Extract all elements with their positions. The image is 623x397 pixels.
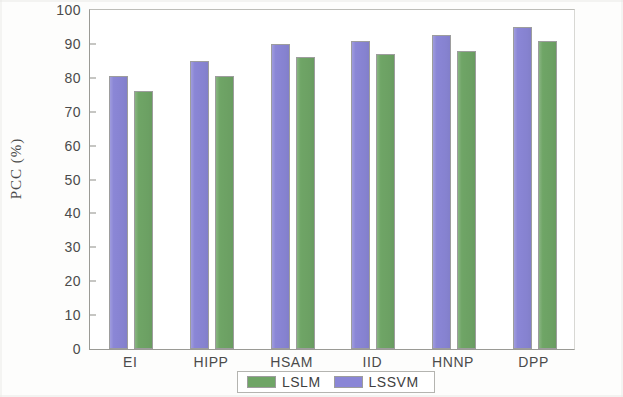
bar-lssvm-hnnp (432, 35, 451, 349)
green-swatch-icon (247, 376, 276, 388)
legend-entry-lssvm: LSSVM (334, 374, 425, 390)
bar-lssvm-hsam (271, 44, 290, 349)
y-tick-label-90: 90 (64, 36, 90, 52)
plot-area: 1009080706050403020100 (89, 9, 575, 350)
bar-lslm-hipp (215, 76, 234, 349)
bar-chart-figure: PCC (%) 1009080706050403020100 EIHIPPHSA… (0, 0, 623, 397)
purple-swatch-icon (334, 376, 363, 388)
y-tick-label-20: 20 (64, 273, 90, 289)
y-tick-label-60: 60 (64, 138, 90, 154)
bar-lssvm-dpp (513, 27, 532, 349)
x-tick-label-dpp: DPP (518, 354, 549, 370)
scan-edge-left (0, 0, 2, 397)
y-tick-label-40: 40 (64, 205, 90, 221)
bar-lslm-hsam (296, 57, 315, 349)
legend-label-lslm: LSLM (282, 374, 321, 390)
y-tick-mark-80 (90, 77, 96, 78)
y-tick-label-50: 50 (64, 172, 90, 188)
y-tick-mark-20 (90, 281, 96, 282)
y-tick-label-80: 80 (64, 70, 90, 86)
x-tick-label-hnnp: HNNP (432, 354, 474, 370)
bar-lslm-iid (376, 54, 395, 349)
y-tick-mark-30 (90, 247, 96, 248)
x-tick-label-hsam: HSAM (270, 354, 313, 370)
y-tick-label-100: 100 (56, 2, 90, 18)
y-tick-label-70: 70 (64, 104, 90, 120)
y-tick-mark-10 (90, 315, 96, 316)
y-tick-mark-70 (90, 111, 96, 112)
bar-lslm-ei (134, 91, 153, 349)
bar-lssvm-ei (109, 76, 128, 349)
bar-lssvm-hipp (190, 61, 209, 349)
x-tick-label-ei: EI (123, 354, 137, 370)
bar-lslm-dpp (538, 41, 557, 349)
y-tick-label-10: 10 (64, 307, 90, 323)
y-tick-mark-50 (90, 179, 96, 180)
scan-edge-top (0, 0, 623, 2)
legend-label-lssvm: LSSVM (369, 374, 419, 390)
bar-lssvm-iid (351, 41, 370, 349)
bar-lslm-hnnp (457, 51, 476, 349)
y-tick-mark-90 (90, 43, 96, 44)
legend-entry-lslm: LSLM (247, 374, 327, 390)
y-tick-label-0: 0 (73, 341, 90, 357)
y-tick-mark-60 (90, 145, 96, 146)
y-tick-mark-40 (90, 213, 96, 214)
y-axis-label: PCC (%) (8, 109, 25, 229)
y-tick-label-30: 30 (64, 239, 90, 255)
x-tick-label-hipp: HIPP (193, 354, 228, 370)
chart-legend: LSLMLSSVM (237, 371, 435, 393)
x-tick-label-iid: IID (362, 354, 382, 370)
